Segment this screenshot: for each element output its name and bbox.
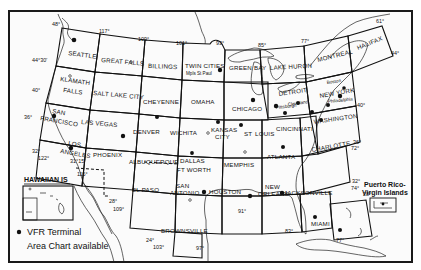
label-omaha: OMAHA [191,98,215,105]
svg-text:32°: 32° [32,148,40,154]
label-san-antonio-2: ANTONIO [170,189,199,196]
label-cincinnati: CINCINNATI [276,125,313,132]
cell-charlotte[interactable] [302,146,350,194]
legend-line-1: VFR Terminal [27,227,81,237]
label-wichita: WICHITA [170,129,198,136]
cell-cheyenne[interactable] [139,76,182,118]
label-philadelphia: Philadelphia [328,96,354,104]
svg-text:109°: 109° [138,36,149,42]
cell-billings[interactable] [142,40,183,80]
label-dallas: DALLAS [180,157,205,164]
label-green-bay: GREEN BAY [229,64,266,71]
svg-text:77°: 77° [301,38,309,44]
svg-text:74°: 74° [351,185,359,191]
svg-text:83°: 83° [285,228,293,234]
puerto-rico-title-1: Puerto Rico- [364,181,406,188]
label-detroit: DETROIT [278,86,307,97]
label-twin-cities: TWIN CITIES [185,62,225,69]
label-san-antonio-1: SAN [176,182,189,189]
svg-text:31°15': 31°15' [70,158,85,164]
label-new: NEW [265,183,280,190]
svg-text:117°: 117° [99,28,110,34]
svg-text:91°: 91° [238,208,246,214]
svg-text:101°: 101° [176,40,187,46]
label-jacksonville: JACKSONVILLE [284,189,332,196]
label-falls: FALLS [63,86,83,96]
label-boston: Boston [326,78,341,85]
label-denver: DENVER [133,128,160,135]
label-houston: HOUSTON [209,188,241,195]
label-el-paso: EL PASO [132,186,159,193]
svg-text:40°: 40° [357,102,365,108]
svg-text:44°: 44° [391,50,399,56]
label-phoenix: PHOENIX [93,151,122,158]
label-louis: LOUIS [255,130,275,137]
label-francisco: FRANCISCO [40,114,79,128]
svg-text:122°: 122° [38,155,49,161]
hawaii-title: HAWAIIAN IS [24,176,68,183]
label-chicago: CHICAGO [232,105,262,112]
label-city: CITY [215,133,230,140]
label-albuquerque: ALBUQUERQUE [129,158,179,165]
label-klamath: KLAMATH [60,75,91,86]
svg-text:109°: 109° [113,206,124,212]
label-seattle: SEATTLE [68,49,97,60]
label-great-falls: GREAT FALLS [101,56,145,67]
svg-text:77°: 77° [336,237,344,243]
cell-el-paso[interactable] [130,190,176,232]
sectional-chart-map: SEATTLE GREAT FALLS BILLINGS TWIN CITIES… [0,0,421,270]
svg-text:93°: 93° [216,40,224,46]
label-miami: MIAMI [311,220,330,227]
label-memphis: MEMPHIS [224,161,254,168]
label-ft-worth: FT WORTH [177,166,211,173]
svg-text:40°: 40° [32,87,40,93]
puerto-rico-title-2: Virgin Islands [362,189,408,197]
label-mpls: Mpls St Paul [186,71,212,76]
label-las-vegas: LAS VEGAS [81,118,118,128]
label-st: ST [244,130,252,137]
svg-text:115°: 115° [77,171,88,177]
svg-text:44°30': 44°30' [32,57,47,63]
svg-text:97°: 97° [196,245,204,251]
svg-text:36°: 36° [24,114,32,120]
cell-chicago[interactable] [224,82,268,120]
legend-dot-icon [17,230,21,234]
label-halifax: HALIFAX [356,34,384,51]
legend-line-2: Area Chart available [27,241,109,251]
cell-st-louis[interactable] [262,118,302,158]
label-montreal: MONTREAL [317,47,354,63]
cell-halifax[interactable] [348,26,393,72]
cell-las-vegas[interactable] [86,110,139,152]
svg-text:72°: 72° [351,145,359,151]
cell-miami[interactable] [330,200,372,240]
label-salt-lake: SALT LAKE CITY [93,89,144,100]
hawaii-inset: HAWAIIAN IS [23,176,73,220]
label-brownsville: BROWNSVILLE [161,227,208,234]
cell-new-orleans[interactable] [262,194,302,234]
label-atlanta: ATLANTA [267,153,296,160]
svg-text:32°: 32° [352,178,360,184]
svg-text:28°: 28° [109,198,117,204]
label-kansas: KANSAS [211,126,237,133]
svg-text:48°: 48° [52,21,60,27]
label-pittsburgh: Pittsburgh [276,103,298,110]
svg-text:61°: 61° [376,18,384,24]
label-billings: BILLINGS [148,62,178,70]
svg-text:85°: 85° [258,42,266,48]
legend: VFR Terminal Area Chart available [17,227,109,251]
cell-houston[interactable] [222,196,262,234]
label-washington: WASHINGTON [313,112,358,125]
svg-text:103°: 103° [153,244,164,250]
label-cheyenne: CHEYENNE [143,98,179,105]
svg-text:24°: 24° [146,237,154,243]
